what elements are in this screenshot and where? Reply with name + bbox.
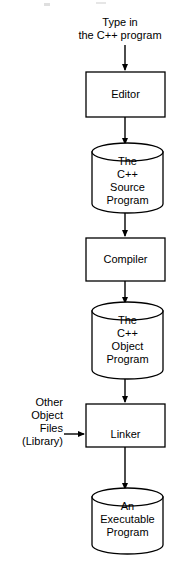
node-source-shape[interactable] [92,143,163,213]
node-linker-shape[interactable] [86,404,165,447]
node-compiler-shape[interactable] [86,238,165,281]
caption-type-in-program: Type in the C++ program [60,16,180,42]
flowchart-canvas [0,0,180,564]
node-editor-shape[interactable] [86,72,165,117]
node-executable-shape[interactable] [92,488,163,554]
page-edge-artifact [44,2,106,6]
node-object-shape[interactable] [92,302,163,379]
caption-other-object-files: Other Object Files (Library) [0,396,63,448]
